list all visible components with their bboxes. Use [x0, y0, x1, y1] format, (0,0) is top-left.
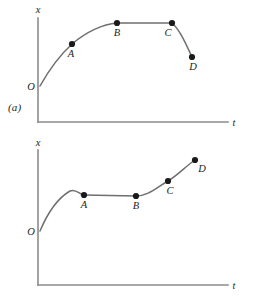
chart-b-label-A: A	[80, 199, 88, 210]
chart-a-point-D	[189, 54, 195, 60]
chart-b-x-axis-label: t	[233, 280, 237, 291]
chart-b-point-A	[81, 192, 87, 198]
chart-b-point-D	[192, 157, 198, 163]
chart-a-point-A	[69, 41, 75, 47]
chart-a-label-D: D	[188, 61, 197, 72]
chart-a-label-A: A	[67, 48, 75, 59]
chart-b-point-C	[165, 178, 171, 184]
chart-a-point-C	[169, 20, 175, 26]
chart-a-label-C: C	[164, 27, 172, 38]
chart-b-label-C: C	[166, 185, 174, 196]
chart-a-label-B: B	[114, 27, 121, 38]
chart-b-point-B	[133, 193, 139, 199]
chart-b-origin-label: O	[27, 226, 35, 237]
chart-panel-a: x t O A B C D (a)	[0, 0, 254, 146]
chart-a-caption: (a)	[8, 102, 21, 113]
chart-a-origin-label: O	[27, 81, 35, 92]
chart-b-svg: x t O A B C D	[0, 140, 254, 308]
chart-b-label-B: B	[133, 200, 140, 211]
chart-panel-b: x t O A B C D (b)	[0, 140, 254, 308]
chart-a-y-axis-label: x	[35, 4, 41, 15]
chart-a-svg: x t O A B C D	[0, 0, 254, 146]
chart-a-x-axis-label: t	[233, 117, 237, 128]
chart-a-point-B	[114, 20, 120, 26]
figure-page: x t O A B C D (a) x t	[0, 0, 254, 308]
chart-b-label-D: D	[197, 163, 206, 174]
chart-b-y-axis-label: x	[35, 140, 41, 148]
